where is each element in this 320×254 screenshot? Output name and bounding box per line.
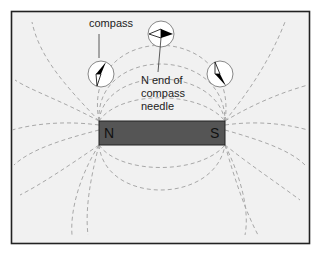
south-pole-label: S [210,125,219,141]
compass-icon-right [207,61,233,87]
north-pole-label: N [104,125,114,141]
needle-label-line1: N end of [141,74,183,87]
magnetic-field-diagram [0,0,320,254]
compass-icon-left [88,61,114,87]
needle-label-line2: compass [141,87,185,100]
needle-label-line3: needle [141,100,174,113]
bar-magnet [99,121,225,145]
compass-icon-top [148,21,174,47]
compass-label: compass [89,17,133,30]
